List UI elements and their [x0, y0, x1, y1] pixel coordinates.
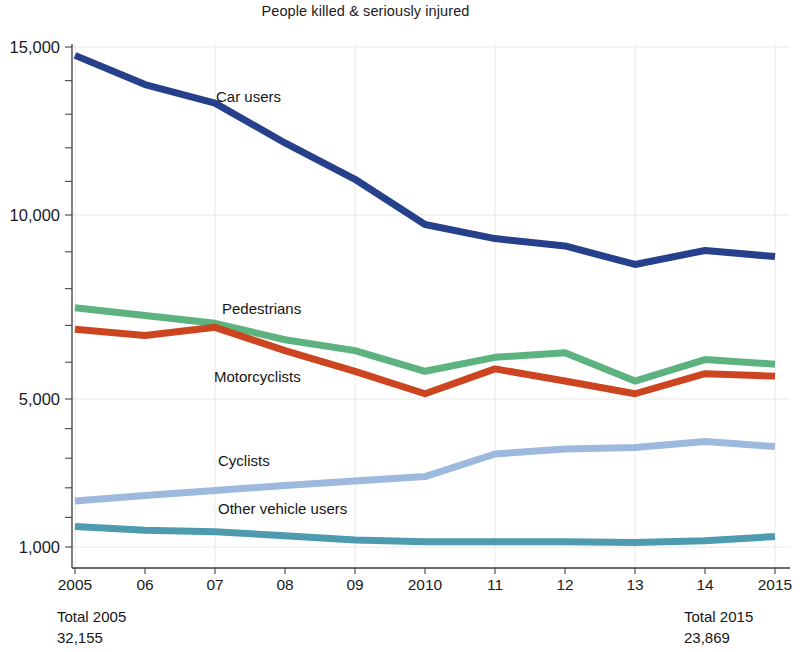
series-label-cyclists: Cyclists: [218, 452, 270, 470]
total-2005-title: Total 2005: [57, 606, 126, 627]
x-axis-tick-label: 14: [696, 576, 714, 593]
x-axis-labels: 2005060708092010111213142015: [58, 576, 792, 593]
y-axis-tick-label: 1,000: [19, 538, 60, 556]
series-line-motorcyclists: [75, 327, 775, 393]
series-line-car-users: [75, 55, 775, 264]
x-axis-tick-label: 12: [556, 576, 573, 593]
total-2015-annotation: Total 2015 23,869: [684, 606, 753, 648]
x-axis-tick-label: 13: [626, 576, 643, 593]
gridlines: [72, 44, 790, 568]
series-label-other-vehicle-users: Other vehicle users: [218, 500, 347, 518]
series-label-car-users: Car users: [216, 88, 281, 106]
series-line-pedestrians: [75, 308, 775, 381]
series-label-other-vehicle-users-text: Other vehicle users: [218, 500, 347, 517]
chart-root: People killed & seriously injured 15,000…: [0, 0, 807, 652]
series-label-motorcyclists: Motorcyclists: [214, 368, 301, 386]
total-2015-value: 23,869: [684, 627, 753, 648]
series-line-cyclists: [75, 441, 775, 500]
series-line-other-vehicle-users: [75, 526, 775, 542]
line-chart-plot: 15,00010,0005,0001,000 20050607080920101…: [0, 0, 807, 652]
x-axis-tick-label: 2005: [58, 576, 92, 593]
series-label-pedestrians-text: Pedestrians: [222, 300, 301, 317]
series-label-cyclists-text: Cyclists: [218, 452, 270, 469]
total-2005-value: 32,155: [57, 627, 126, 648]
y-axis-labels: 15,00010,0005,0001,000: [10, 38, 60, 556]
y-axis-tick-label: 15,000: [10, 38, 60, 56]
x-axis-tick-label: 11: [487, 576, 503, 593]
x-axis-tick-label: 2015: [758, 576, 792, 593]
x-axis-tick-label: 09: [346, 576, 363, 593]
x-axis-tick-label: 07: [206, 576, 223, 593]
series-label-pedestrians: Pedestrians: [222, 300, 301, 318]
series-label-car-users-text: Car users: [216, 88, 281, 105]
y-axis-tick-label: 10,000: [10, 206, 60, 224]
y-axis-tick-label: 5,000: [19, 390, 60, 408]
x-axis-tick-label: 06: [136, 576, 153, 593]
y-axis-ticks: [65, 47, 72, 547]
x-axis-tick-label: 08: [276, 576, 293, 593]
series-label-motorcyclists-text: Motorcyclists: [214, 368, 301, 385]
x-axis-ticks: [75, 568, 775, 574]
total-2015-title: Total 2015: [684, 606, 753, 627]
total-2005-annotation: Total 2005 32,155: [57, 606, 126, 648]
series-lines: [75, 55, 775, 542]
x-axis-tick-label: 2010: [408, 576, 443, 593]
